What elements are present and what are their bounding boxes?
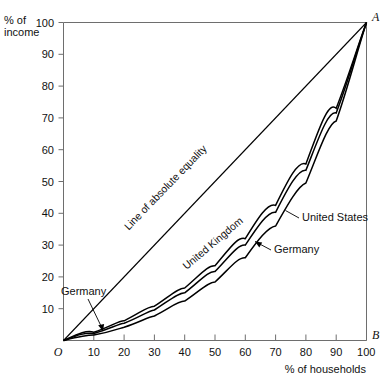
point-a-label: A	[371, 10, 380, 24]
x-tick-label-90: 90	[330, 346, 342, 358]
equality-line-label: Line of absolute equality	[121, 142, 209, 232]
y-axis-tick-labels: 100 90 80 70 60 50 40 30 20 10	[36, 17, 54, 315]
y-axis-title-line2: income	[4, 26, 39, 38]
x-tick-label-20: 20	[118, 346, 130, 358]
y-axis-title: % of income	[4, 14, 39, 38]
y-tick-label-80: 80	[42, 80, 54, 92]
x-tick-label-80: 80	[300, 346, 312, 358]
germany-left-callout: Germany	[61, 285, 107, 332]
y-axis-ticks	[59, 23, 64, 309]
y-tick-label-40: 40	[42, 207, 54, 219]
x-tick-label-50: 50	[209, 346, 221, 358]
y-tick-label-20: 20	[42, 271, 54, 283]
chart-canvas: 100 90 80 70 60 50 40 30 20 10 10	[0, 0, 391, 382]
x-tick-label-30: 30	[148, 346, 160, 358]
united-states-label: United States	[302, 211, 369, 223]
y-tick-label-60: 60	[42, 144, 54, 156]
x-axis-ticks	[94, 335, 367, 341]
x-tick-label-60: 60	[239, 346, 251, 358]
y-axis-title-line1: % of	[4, 14, 27, 26]
x-axis-title: % of households	[285, 363, 367, 375]
x-tick-label-40: 40	[179, 346, 191, 358]
y-tick-label-50: 50	[42, 176, 54, 188]
y-tick-label-90: 90	[42, 48, 54, 60]
point-b-label: B	[372, 328, 380, 342]
origin-label: O	[54, 345, 63, 359]
y-tick-label-30: 30	[42, 239, 54, 251]
lorenz-curve-chart: 100 90 80 70 60 50 40 30 20 10 10	[0, 0, 391, 382]
united-states-callout: United States	[286, 211, 369, 224]
y-tick-label-10: 10	[42, 303, 54, 315]
germany-right-label: Germany	[274, 243, 320, 255]
y-tick-label-70: 70	[42, 112, 54, 124]
x-tick-label-10: 10	[88, 346, 100, 358]
line-of-absolute-equality	[64, 23, 367, 341]
x-tick-label-70: 70	[269, 346, 281, 358]
germany-left-label: Germany	[61, 285, 107, 297]
germany-right-callout: Germany	[255, 242, 320, 256]
x-axis-tick-labels: 10 20 30 40 50 60 70 80 90 100	[88, 346, 376, 358]
united-states-leader	[286, 211, 300, 219]
x-tick-label-100: 100	[357, 346, 375, 358]
